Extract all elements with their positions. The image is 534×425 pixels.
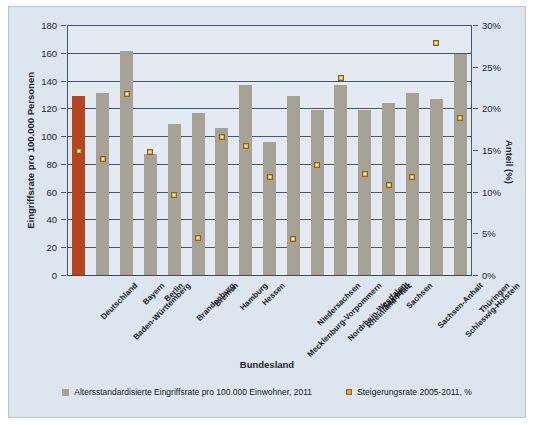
left-axis-tick-label: 160 — [41, 47, 57, 58]
legend-bar-swatch-icon — [62, 389, 69, 396]
marker-deutschland — [76, 148, 82, 154]
marker-th-ringen — [457, 115, 463, 121]
left-axis-tick — [61, 275, 66, 276]
legend-label-bars: Altersstandardisierte Eingriffsrate pro … — [74, 387, 312, 397]
bar-rheinland-pfalz — [334, 85, 347, 275]
left-axis-tick — [61, 219, 66, 220]
bar-niedersachsen — [287, 96, 300, 275]
bar-th-ringen — [454, 54, 467, 275]
marker-hamburg — [219, 134, 225, 140]
left-axis-tick — [61, 108, 66, 109]
gridline — [67, 275, 472, 276]
bar-saarland — [358, 110, 371, 275]
legend-item-bars: Altersstandardisierte Eingriffsrate pro … — [62, 387, 312, 397]
right-axis-tick — [473, 150, 478, 151]
marker-brandenburg — [171, 192, 177, 198]
left-axis-tick — [61, 136, 66, 137]
y2-axis-title-label: Anteil (%) — [504, 140, 515, 184]
bar-deutschland — [72, 96, 85, 275]
left-axis-tick-label: 80 — [46, 158, 57, 169]
left-axis-tick-label: 60 — [46, 186, 57, 197]
right-axis-tick-label: 25% — [482, 61, 501, 72]
y-axis-title-label: Eingriffsrate pro 100.000 Personen — [25, 72, 36, 229]
left-axis-tick — [61, 192, 66, 193]
right-axis-tick — [473, 67, 478, 68]
legend-label-markers: Steigerungsrate 2005-2011, % — [357, 387, 472, 397]
bar-schleswig-holstein — [430, 99, 443, 275]
marker-baden-w-rttemberg — [100, 156, 106, 162]
bar-brandenburg — [168, 124, 181, 275]
left-axis-tick — [61, 81, 66, 82]
left-axis-tick — [61, 25, 66, 26]
right-axis-tick-label: 0% — [482, 270, 496, 281]
right-axis-line — [471, 25, 472, 275]
right-axis-tick — [473, 108, 478, 109]
left-axis-tick-label: 100 — [41, 131, 57, 142]
bar-hessen — [239, 85, 252, 275]
marker-schleswig-holstein — [433, 40, 439, 46]
left-axis-tick-label: 180 — [41, 20, 57, 31]
marker-niedersachsen — [290, 236, 296, 242]
left-axis-tick-label: 0 — [52, 270, 57, 281]
category-labels: DeutschlandBaden-WürttembergBayernBerlin… — [67, 277, 472, 357]
right-axis-tick — [473, 233, 478, 234]
marker-mecklenburg-vorpommern — [267, 174, 273, 180]
bar-nordrhein-westfalen — [311, 110, 324, 275]
bar-hamburg — [215, 128, 228, 275]
gridline — [67, 25, 472, 26]
bar-baden-w-rttemberg — [96, 93, 109, 275]
bar-bayern — [120, 51, 133, 275]
plot-area: 020406080100120140160180 0%5%10%15%20%25… — [67, 25, 472, 275]
marker-berlin — [147, 149, 153, 155]
right-axis-tick — [473, 25, 478, 26]
marker-bremen — [195, 235, 201, 241]
left-axis-tick — [61, 247, 66, 248]
marker-bayern — [124, 91, 130, 97]
left-axis-line — [67, 25, 68, 275]
bar-sachsen-anhalt — [406, 93, 419, 275]
chart-legend: Altersstandardisierte Eingriffsrate pro … — [9, 387, 525, 397]
left-axis-tick-label: 20 — [46, 242, 57, 253]
legend-marker-swatch-icon — [346, 389, 352, 395]
left-axis-tick — [61, 164, 66, 165]
right-axis-tick-label: 10% — [482, 186, 501, 197]
legend-item-markers: Steigerungsrate 2005-2011, % — [346, 387, 472, 397]
right-axis-tick-label: 5% — [482, 228, 496, 239]
marker-rheinland-pfalz — [338, 75, 344, 81]
marker-hessen — [243, 143, 249, 149]
chart-card: Eingriffsrate pro 100.000 Personen Antei… — [8, 6, 526, 418]
right-axis-tick-label: 20% — [482, 103, 501, 114]
right-axis-tick-label: 30% — [482, 20, 501, 31]
left-axis-tick — [61, 53, 66, 54]
bar-mecklenburg-vorpommern — [263, 142, 276, 275]
y-axis-title: Eingriffsrate pro 100.000 Personen — [25, 25, 36, 275]
left-axis-tick-label: 120 — [41, 103, 57, 114]
category-label: Deutschland — [99, 281, 139, 321]
x-axis-title: Bundesland — [9, 359, 525, 370]
marker-nordrhein-westfalen — [314, 162, 320, 168]
right-axis-tick-label: 15% — [482, 145, 501, 156]
marker-sachsen — [386, 182, 392, 188]
y2-axis-title: Anteil (%) — [504, 107, 515, 217]
left-axis-tick-label: 40 — [46, 214, 57, 225]
bar-berlin — [144, 154, 157, 275]
bar-sachsen — [382, 103, 395, 275]
right-axis-tick — [473, 192, 478, 193]
marker-sachsen-anhalt — [409, 174, 415, 180]
marker-saarland — [362, 171, 368, 177]
left-axis-tick-label: 140 — [41, 75, 57, 86]
right-axis-tick — [473, 275, 478, 276]
bar-bremen — [192, 113, 205, 276]
